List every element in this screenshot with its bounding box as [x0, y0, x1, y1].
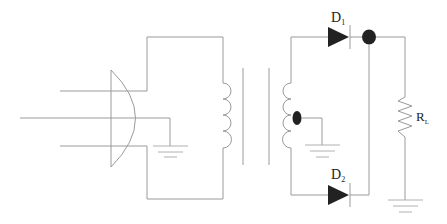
primary-coil — [223, 83, 231, 148]
center-tap — [293, 111, 323, 145]
diode-d1: D1 — [328, 10, 362, 49]
secondary-coil — [283, 83, 291, 148]
center-tap-node — [293, 111, 302, 125]
ground-symbol-1 — [153, 118, 188, 157]
transformer-core — [243, 68, 269, 165]
ground-symbol-3 — [388, 200, 423, 212]
d2-label: D2 — [331, 167, 345, 184]
output-node — [362, 30, 376, 45]
rl-label: RL — [416, 109, 429, 126]
d1-label: D1 — [331, 10, 345, 27]
load-resistor: RL — [376, 37, 429, 200]
diode-d2: D2 — [328, 44, 369, 207]
circuit-diagram: D1 D2 RL — [0, 0, 447, 224]
ground-symbol-2 — [305, 145, 340, 157]
